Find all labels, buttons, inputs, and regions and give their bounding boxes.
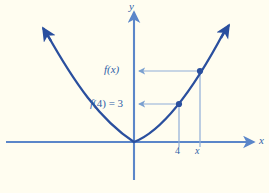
x-axis-label: x [259, 135, 264, 146]
f4-annotation-label: f(4) = 3 [90, 98, 123, 109]
curve-right-arrow [221, 25, 229, 38]
x-tick-label-4: 4 [175, 146, 180, 156]
function-graph-figure: y x f(x) f(4) = 3 4 x [0, 0, 269, 193]
point-f4 [176, 101, 182, 107]
f4-label-arg: (4) = 3 [93, 97, 123, 109]
x-tick-label-x: x [195, 146, 199, 156]
fx-annotation-label: f(x) [104, 64, 119, 75]
point-fx [197, 68, 203, 74]
parabola-curve [47, 32, 224, 142]
curve-left-arrow [43, 28, 51, 41]
graph-canvas [0, 0, 269, 193]
y-axis-label: y [129, 1, 134, 12]
